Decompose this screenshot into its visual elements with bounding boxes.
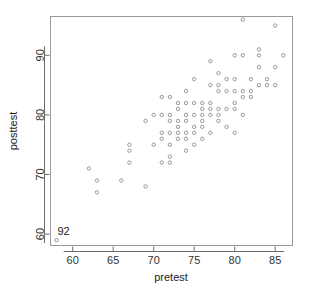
scatter-point bbox=[233, 54, 236, 57]
scatter-point bbox=[209, 101, 212, 104]
scatter-point bbox=[87, 167, 90, 170]
x-axis: 606570758085 bbox=[64, 247, 285, 267]
scatter-point bbox=[176, 137, 179, 140]
scatter-point bbox=[217, 107, 220, 110]
scatter-point bbox=[160, 137, 163, 140]
scatter-point bbox=[128, 149, 131, 152]
y-tick-label: 90 bbox=[34, 49, 46, 61]
scatter-point bbox=[184, 119, 187, 122]
scatter-point bbox=[201, 119, 204, 122]
scatter-point bbox=[128, 161, 131, 164]
scatter-point bbox=[282, 54, 285, 57]
scatter-point bbox=[184, 137, 187, 140]
scatter-point bbox=[184, 113, 187, 116]
scatter-point bbox=[257, 66, 260, 69]
point-label-92: 92 bbox=[57, 225, 69, 237]
scatter-point bbox=[152, 143, 155, 146]
scatter-point bbox=[249, 95, 252, 98]
scatter-point bbox=[209, 60, 212, 63]
scatter-point bbox=[225, 89, 228, 92]
scatter-point bbox=[160, 95, 163, 98]
scatter-point bbox=[192, 113, 195, 116]
x-tick-label: 60 bbox=[67, 254, 79, 266]
scatter-point bbox=[217, 113, 220, 116]
scatter-point bbox=[184, 149, 187, 152]
scatter-point bbox=[233, 101, 236, 104]
scatter-point bbox=[257, 48, 260, 51]
scatter-point bbox=[257, 54, 260, 57]
scatter-point bbox=[192, 101, 195, 104]
scatter-point bbox=[128, 143, 131, 146]
annotations: 92 bbox=[57, 225, 69, 237]
scatter-point bbox=[95, 179, 98, 182]
scatter-point bbox=[168, 155, 171, 158]
scatter-point bbox=[168, 143, 171, 146]
scatter-point bbox=[209, 107, 212, 110]
scatter-point bbox=[201, 101, 204, 104]
scatter-point bbox=[168, 113, 171, 116]
scatter-point bbox=[217, 119, 220, 122]
scatter-point bbox=[192, 131, 195, 134]
scatter-point bbox=[233, 131, 236, 134]
scatter-point bbox=[217, 89, 220, 92]
x-tick-label: 80 bbox=[229, 254, 241, 266]
scatter-point bbox=[249, 77, 252, 80]
scatter-point bbox=[168, 95, 171, 98]
scatter-point bbox=[217, 72, 220, 75]
scatter-point bbox=[192, 125, 195, 128]
scatter-point bbox=[152, 113, 155, 116]
scatter-point bbox=[120, 179, 123, 182]
scatter-point bbox=[176, 107, 179, 110]
scatter-point bbox=[201, 107, 204, 110]
scatter-point bbox=[225, 77, 228, 80]
scatter-point bbox=[241, 89, 244, 92]
scatter-point bbox=[257, 83, 260, 86]
scatter-point bbox=[55, 238, 58, 241]
scatter-point bbox=[192, 143, 195, 146]
scatter-point bbox=[209, 113, 212, 116]
scatter-point bbox=[233, 107, 236, 110]
scatter-point bbox=[160, 161, 163, 164]
scatter-point bbox=[241, 54, 244, 57]
scatter-point bbox=[233, 77, 236, 80]
scatter-point bbox=[225, 125, 228, 128]
scatter-plot-canvas: 606570758085 60708090 92 pretest posttes… bbox=[0, 0, 309, 289]
scatter-point bbox=[201, 125, 204, 128]
scatter-point bbox=[184, 101, 187, 104]
scatter-plot-figure: 606570758085 60708090 92 pretest posttes… bbox=[0, 0, 309, 289]
x-tick-label: 75 bbox=[188, 254, 200, 266]
scatter-point bbox=[233, 89, 236, 92]
scatter-point bbox=[176, 125, 179, 128]
scatter-point bbox=[176, 131, 179, 134]
y-axis: 60708090 bbox=[34, 46, 50, 243]
scatter-point bbox=[168, 131, 171, 134]
scatter-point bbox=[144, 119, 147, 122]
scatter-point bbox=[192, 77, 195, 80]
scatter-point bbox=[201, 137, 204, 140]
scatter-point bbox=[168, 119, 171, 122]
scatter-point bbox=[273, 83, 276, 86]
x-tick-label: 85 bbox=[269, 254, 281, 266]
x-tick-label: 65 bbox=[107, 254, 119, 266]
scatter-point bbox=[273, 24, 276, 27]
scatter-point bbox=[160, 113, 163, 116]
scatter-point bbox=[225, 107, 228, 110]
y-tick-label: 60 bbox=[34, 228, 46, 240]
scatter-point bbox=[176, 101, 179, 104]
scatter-point bbox=[160, 131, 163, 134]
scatter-point bbox=[168, 161, 171, 164]
plot-frame bbox=[51, 17, 293, 246]
scatter-point bbox=[184, 131, 187, 134]
scatter-point bbox=[241, 18, 244, 21]
scatter-point bbox=[217, 83, 220, 86]
scatter-point bbox=[95, 191, 98, 194]
scatter-point bbox=[249, 89, 252, 92]
scatter-point bbox=[241, 113, 244, 116]
scatter-point bbox=[265, 77, 268, 80]
x-axis-title: pretest bbox=[154, 271, 188, 283]
scatter-point bbox=[184, 89, 187, 92]
scatter-point bbox=[209, 83, 212, 86]
x-tick-label: 70 bbox=[148, 254, 160, 266]
y-tick-label: 80 bbox=[34, 109, 46, 121]
y-axis-title: posttest bbox=[7, 112, 19, 151]
